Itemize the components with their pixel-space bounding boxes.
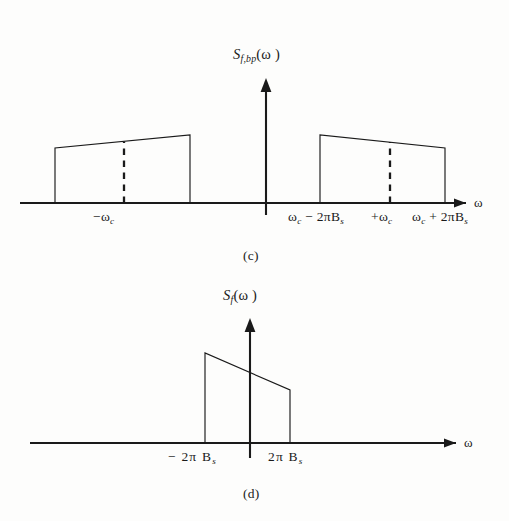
figure-d-y-axis-label: Sf(ω )	[223, 288, 257, 305]
negative-frequency-lobe	[55, 135, 190, 203]
figure-d-lowpass-spectrum: Sf(ω ) ω − 2π Bs 2π Bs (d)	[0, 278, 509, 521]
figure-page: Sf,bp(ω ) ω −ωc ωc − 2πBs +ωc ωc + 2πBs …	[0, 0, 509, 521]
baseband-lobe	[205, 353, 290, 443]
tick-label-minus-omega-c: −ωc	[93, 210, 114, 226]
tick-label-omega-c-plus-2piBs: ωc + 2πBs	[412, 210, 468, 226]
figure-c-caption: (c)	[243, 249, 259, 263]
y-axis-arrowhead	[245, 318, 256, 332]
tick-label-plus-2piBs: 2π Bs	[268, 450, 303, 466]
figure-d-plot	[0, 278, 509, 521]
positive-frequency-lobe	[320, 135, 445, 203]
figure-c-plot	[0, 0, 509, 278]
tick-label-minus-2piBs: − 2π Bs	[168, 450, 216, 466]
figure-c-y-axis-label: Sf,bp(ω )	[233, 47, 280, 64]
tick-label-omega-c-minus-2piBs: ωc − 2πBs	[288, 210, 344, 226]
y-axis-arrowhead	[261, 78, 272, 92]
tick-label-plus-omega-c: +ωc	[371, 210, 392, 226]
figure-d-caption: (d)	[243, 487, 260, 501]
figure-c-x-axis-label: ω	[474, 196, 483, 209]
x-axis-arrowhead	[444, 439, 456, 448]
x-axis-arrowhead	[454, 199, 466, 208]
figure-c-bandpass-spectrum: Sf,bp(ω ) ω −ωc ωc − 2πBs +ωc ωc + 2πBs …	[0, 0, 509, 278]
figure-d-x-axis-label: ω	[464, 436, 473, 449]
